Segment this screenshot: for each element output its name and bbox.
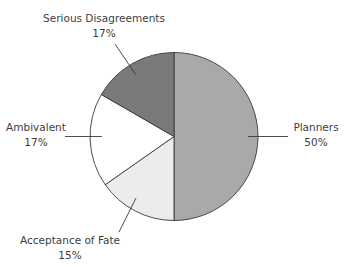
label-planners: Planners 50% — [293, 120, 338, 150]
label-percent: 50% — [293, 135, 338, 150]
slice-planners — [174, 53, 258, 221]
label-serious-disagreements: Serious Disagreements 17% — [43, 11, 165, 41]
label-acceptance-of-fate: Acceptance of Fate 15% — [20, 233, 120, 263]
label-percent: 17% — [43, 26, 165, 41]
label-ambivalent: Ambivalent 17% — [6, 120, 66, 150]
label-name: Ambivalent — [6, 120, 66, 135]
label-name: Planners — [293, 120, 338, 135]
label-name: Acceptance of Fate — [20, 233, 120, 248]
label-name: Serious Disagreements — [43, 11, 165, 26]
label-percent: 17% — [6, 135, 66, 150]
label-percent: 15% — [20, 248, 120, 263]
